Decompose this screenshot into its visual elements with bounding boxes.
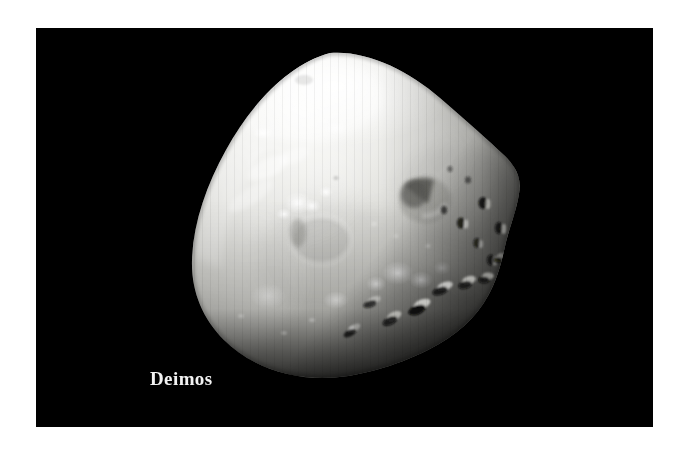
page-root: Deimos (0, 0, 689, 450)
deimos-image (36, 28, 653, 427)
deimos-caption: Deimos (150, 368, 213, 390)
deimos-photo-frame: Deimos (36, 28, 653, 427)
